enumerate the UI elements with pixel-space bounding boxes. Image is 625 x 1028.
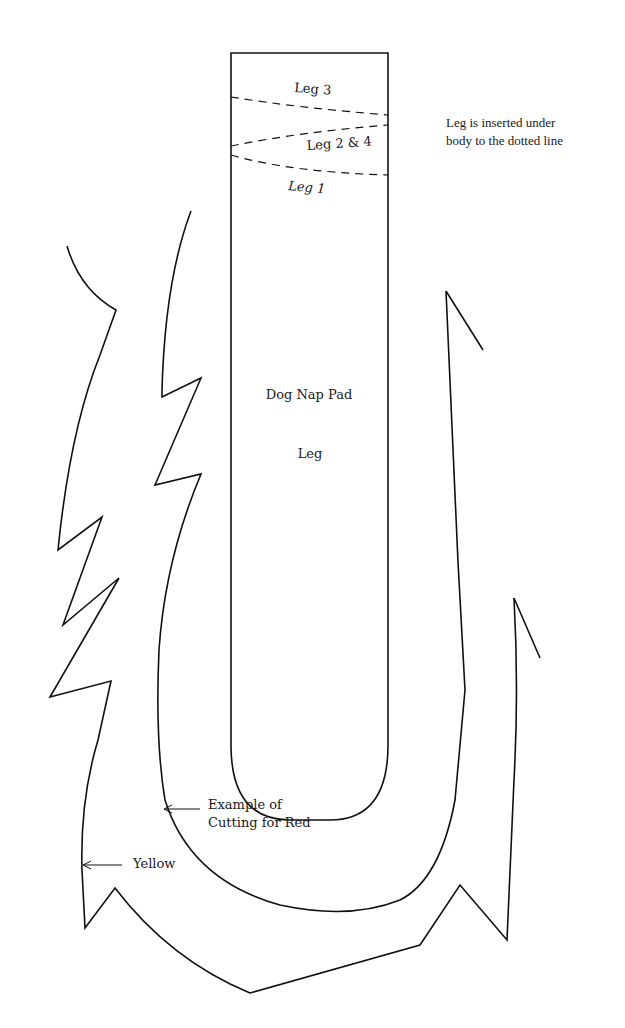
- insertion-note: Leg is inserted under body to the dotted…: [446, 114, 563, 150]
- insertion-note-line1: Leg is inserted under: [446, 114, 563, 132]
- label-leg24: Leg 2 & 4: [306, 133, 372, 153]
- pattern-diagram: Leg 3 Leg 2 & 4 Leg 1 Dog Nap Pad Leg Ex…: [0, 0, 625, 1028]
- label-leg3: Leg 3: [294, 80, 332, 98]
- piece-name: Leg: [298, 446, 323, 461]
- red-callout-line1: Example of: [208, 797, 283, 812]
- yellow-cutting-outline: [50, 246, 517, 993]
- dashed-line-leg1: [231, 155, 388, 175]
- leg-pattern-outline: [231, 53, 388, 820]
- yellow-callout: Yellow: [132, 856, 175, 871]
- red-cutting-outline: [155, 211, 465, 911]
- red-callout-line2: Cutting for Red: [208, 815, 311, 830]
- label-leg1: Leg 1: [287, 178, 326, 196]
- piece-title: Dog Nap Pad: [266, 387, 353, 402]
- red-right-upper-line: [446, 291, 483, 562]
- arrow-icon-red: [164, 805, 200, 813]
- insertion-note-line2: body to the dotted line: [446, 132, 563, 150]
- yellow-right-lower-tick: [514, 598, 540, 658]
- dashed-line-leg3: [231, 97, 388, 115]
- arrow-icon-yellow: [83, 861, 122, 869]
